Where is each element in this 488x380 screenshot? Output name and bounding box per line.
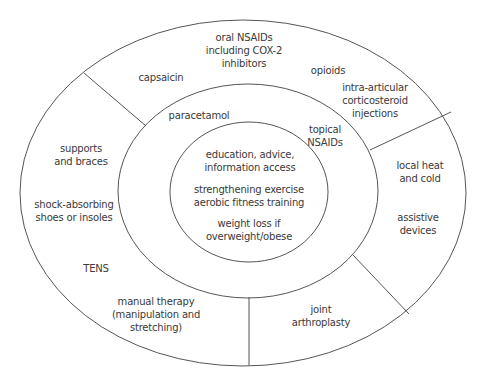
outer-item-supports-braces: supports and braces	[54, 142, 107, 168]
outer-item-shock-absorbing: shock-absorbing shoes or insoles	[34, 198, 113, 224]
outer-item-corticosteroid: intra-articular corticosteroid injection…	[342, 81, 408, 120]
middle-item-topical-nsaids: topical NSAIDs	[307, 123, 343, 149]
outer-item-joint-arthroplasty: joint arthroplasty	[292, 303, 350, 329]
outer-item-oral-nsaids: oral NSAIDs including COX-2 inhibitors	[206, 31, 282, 70]
divider-top-left	[84, 73, 146, 126]
outer-item-capsaicin: capsaicin	[139, 71, 184, 84]
divider-bottom-right	[353, 255, 409, 314]
core-item-weight-loss: weight loss if overweight/obese	[206, 217, 292, 243]
outer-item-opioids: opioids	[311, 64, 345, 77]
core-item-education: education, advice, information access	[205, 148, 296, 174]
outer-item-local-heat: local heat and cold	[396, 159, 443, 185]
outer-item-assistive-devices: assistive devices	[397, 211, 439, 237]
outer-item-manual-therapy: manual therapy (manipulation and stretch…	[112, 295, 200, 334]
core-item-exercise: strengthening exercise aerobic fitness t…	[194, 183, 304, 209]
middle-item-paracetamol: paracetamol	[169, 109, 230, 122]
outer-item-tens: TENS	[83, 262, 108, 275]
